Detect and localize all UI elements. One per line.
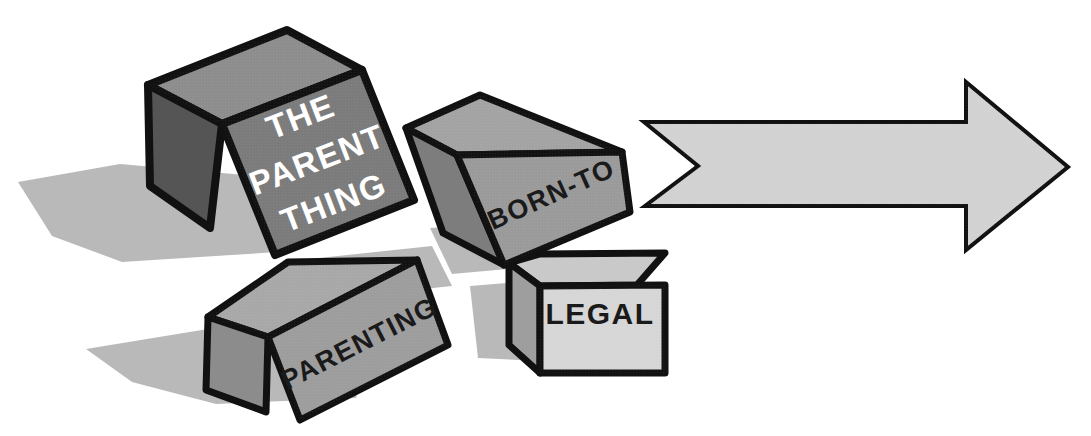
box-legal[interactable]: LEGAL: [509, 253, 665, 373]
right-arrow-texture: [644, 82, 1068, 250]
illustration-canvas: PARENTING LEGAL BORN-TO TH: [0, 0, 1091, 436]
box-parenting[interactable]: PARENTING: [206, 260, 448, 420]
right-arrow[interactable]: [644, 82, 1068, 250]
legal-label: LEGAL: [545, 297, 654, 330]
boxes-and-arrow-illustration: PARENTING LEGAL BORN-TO TH: [0, 0, 1091, 436]
